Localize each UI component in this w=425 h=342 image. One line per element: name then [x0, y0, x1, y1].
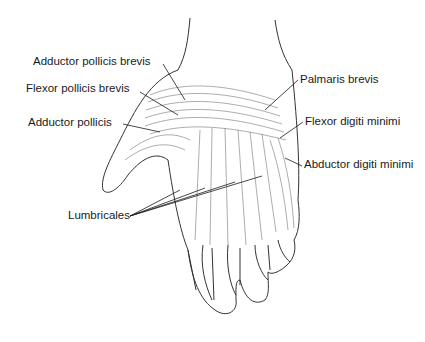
hand-illustration	[0, 0, 425, 342]
label-flexor-digiti-minimi: Flexor digiti minimi	[305, 116, 400, 128]
label-flexor-pollicis-brevis: Flexor pollicis brevis	[26, 83, 130, 95]
label-lumbricales: Lumbricales	[68, 210, 130, 222]
label-adductor-pollicis: Adductor pollicis	[28, 117, 112, 129]
label-abductor-digiti-minimi: Abductor digiti minimi	[304, 159, 413, 171]
label-adductor-pollicis-brevis: Adductor pollicis brevis	[33, 56, 151, 68]
hand-anatomy-diagram: Adductor pollicis brevis Flexor pollicis…	[0, 0, 425, 342]
label-palmaris-brevis: Palmaris brevis	[300, 74, 379, 86]
